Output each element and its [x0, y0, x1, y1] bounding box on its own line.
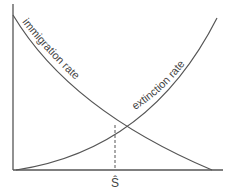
- island-biogeography-diagram: immigration rate extinction rate Ŝ: [0, 0, 233, 195]
- immigration-label: immigration rate: [20, 16, 82, 82]
- extinction-label: extinction rate: [130, 58, 187, 112]
- equilibrium-label: Ŝ: [111, 175, 119, 190]
